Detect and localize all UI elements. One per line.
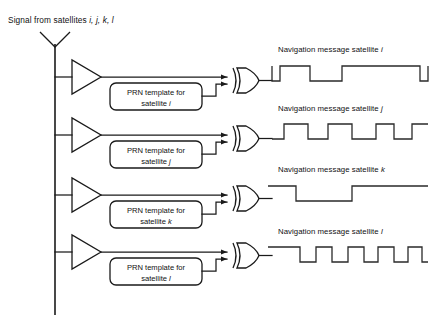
waveform-k [268,186,428,201]
waveform-label-l: Navigation message satellite l [278,227,383,236]
waveform-label-sat-l: l [381,227,383,236]
waveform-label-prefix-j: Navigation message satellite [278,104,381,113]
prn-label-line2-prefix-k: satellite [140,217,168,226]
prn-label-line2-sat-j: j [169,157,171,166]
antenna-assembly [40,32,70,315]
waveform-i [272,66,428,81]
amplifier-triangle-j [72,118,101,152]
header-prefix: Signal from satellites [8,15,89,25]
prn-label-line2-sat-i: i [169,99,171,108]
header-signal-label: Signal from satellites i, j, k, l [8,15,114,25]
waveform-label-sat-k: k [381,165,385,174]
amplifier-triangle-l [72,235,101,269]
prn-label-line1-j: PRN template for [127,146,185,155]
waveform-label-j: Navigation message satellite j [278,104,383,113]
xor-gate-l [233,243,259,268]
waveform-label-sat-i: i [381,45,383,54]
amplifier-triangle-k [72,178,101,212]
prn-label-line1-i: PRN template for [127,88,185,97]
prn-label-line2-prefix-i: satellite [141,99,169,108]
prn-label-line1-k: PRN template for [127,206,185,215]
xor-gate-i [233,68,259,93]
channel-l-prn-output-wire [202,259,227,271]
prn-label-line2-prefix-j: satellite [141,157,169,166]
prn-label-line1-l: PRN template for [127,263,185,272]
waveform-l [268,247,428,262]
prn-label-line2-prefix-l: satellite [141,274,169,283]
xor-gate-j [233,126,259,151]
gnss-correlator-diagram: Signal from satellites i, j, k, l PRN te… [0,0,432,328]
prn-label-line2-sat-k: k [168,217,172,226]
channel-j-prn-output-wire [202,142,227,154]
prn-template-label-j: PRN template forsatellite j [110,146,202,167]
amplifier-triangle-i [72,60,101,94]
prn-template-label-l: PRN template forsatellite l [110,263,202,284]
waveform-label-prefix-l: Navigation message satellite [278,227,381,236]
prn-template-label-k: PRN template forsatellite k [110,206,202,227]
xor-gate-k [233,186,259,211]
waveform-label-i: Navigation message satellite i [278,45,383,54]
prn-template-label-i: PRN template forsatellite i [110,88,202,109]
waveform-label-k: Navigation message satellite k [278,165,385,174]
header-satellite-list: i, j, k, l [89,15,114,25]
prn-label-line2-sat-l: l [169,274,171,283]
waveform-j [272,124,428,139]
channel-i-prn-output-wire [202,84,227,96]
waveform-label-sat-j: j [381,104,383,113]
waveform-label-prefix-k: Navigation message satellite [278,165,381,174]
waveform-label-prefix-i: Navigation message satellite [278,45,381,54]
channel-k-prn-output-wire [202,202,227,214]
